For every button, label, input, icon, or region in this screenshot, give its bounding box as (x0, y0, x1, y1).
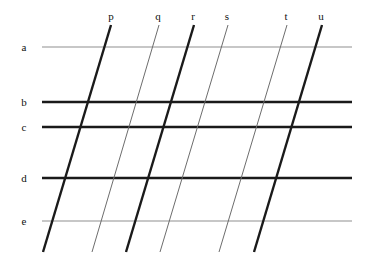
row-label-a: a (22, 42, 27, 53)
slanted-lines-group (43, 25, 322, 252)
column-label-p: p (108, 11, 114, 22)
row-label-c: c (22, 122, 27, 133)
slanted-line-u (254, 25, 322, 252)
row-label-e: e (22, 216, 27, 227)
row-label-d: d (21, 173, 27, 184)
slanted-line-r (126, 25, 194, 252)
grid-canvas (0, 0, 366, 267)
column-label-r: r (191, 11, 195, 22)
slanted-line-s (160, 25, 228, 252)
row-label-b: b (21, 97, 27, 108)
slanted-line-p (43, 25, 111, 252)
column-label-s: s (225, 11, 229, 22)
column-label-u: u (318, 11, 324, 22)
slanted-grid-figure: abcde pqrstu (0, 0, 366, 267)
horizontal-lines-group (42, 47, 352, 221)
slanted-line-t (219, 25, 287, 252)
column-label-q: q (155, 11, 161, 22)
column-label-t: t (284, 11, 287, 22)
